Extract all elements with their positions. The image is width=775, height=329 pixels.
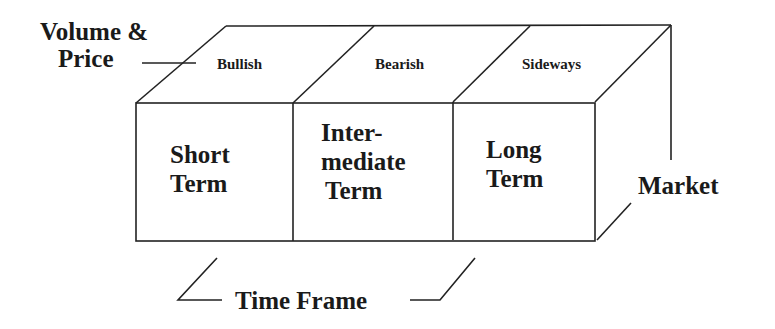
time-frame-left-bracket: [178, 258, 222, 300]
time-frame-right-bracket: [410, 258, 475, 300]
cell-line: Inter-: [321, 118, 406, 147]
cell-line: Short: [170, 140, 230, 169]
cell-line: Term: [321, 176, 406, 205]
top-right-edge: [595, 25, 671, 102]
time-frame-label: Time Frame: [235, 287, 367, 314]
top-cell-bearish: Bearish: [375, 56, 424, 73]
front-cell-intermediate-term: Inter- mediate Term: [321, 118, 406, 205]
front-cell-short-term: Short Term: [170, 140, 230, 198]
cell-line: Term: [486, 164, 543, 193]
front-cell-long-term: Long Term: [486, 135, 543, 193]
volume-price-label: Volume & Price: [40, 18, 148, 72]
top-cell-bullish: Bullish: [217, 56, 262, 73]
top-back-edge: [226, 25, 671, 26]
cell-line: Long: [486, 135, 543, 164]
price-label: Price: [40, 45, 148, 72]
top-left-edge: [136, 26, 226, 103]
top-cell-sideways: Sideways: [522, 56, 581, 73]
market-label: Market: [638, 172, 719, 199]
top-divider-1: [293, 26, 374, 103]
right-bottom-edge: [597, 203, 631, 240]
volume-label: Volume &: [40, 18, 148, 45]
top-divider-2: [453, 26, 530, 102]
cell-line: Term: [170, 169, 230, 198]
cell-line: mediate: [321, 147, 406, 176]
